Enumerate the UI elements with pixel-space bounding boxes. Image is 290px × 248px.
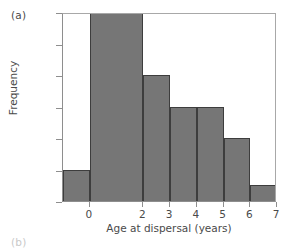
histogram-bar [90, 14, 144, 201]
x-axis-tick-mark [276, 202, 277, 207]
x-axis-tick-label: 7 [266, 208, 286, 220]
histogram-bar [63, 170, 90, 202]
x-axis-tick-label: 4 [186, 208, 206, 220]
histogram-bar [143, 75, 170, 201]
histogram-bar [224, 138, 251, 201]
x-axis-tick-mark [249, 202, 250, 207]
x-axis-tick-label: 2 [132, 208, 152, 220]
x-axis-tick-mark [223, 202, 224, 207]
x-axis-tick-label: 5 [213, 208, 233, 220]
y-axis: 024681012 [0, 0, 62, 246]
x-axis-tick-mark [169, 202, 170, 207]
histogram-bar [170, 107, 197, 202]
bars-container [63, 14, 275, 201]
x-axis-tick-mark [142, 202, 143, 207]
x-axis-tick-label: 6 [239, 208, 259, 220]
histogram-bar [250, 185, 275, 201]
y-axis-tick-mark [56, 202, 62, 203]
x-axis-tick-label: 3 [159, 208, 179, 220]
x-axis-tick-label: 0 [79, 208, 99, 220]
histogram-bar [197, 107, 224, 202]
plot-area [62, 13, 276, 202]
x-axis-title: Age at dispersal (years) [62, 222, 276, 234]
x-axis-tick-mark [196, 202, 197, 207]
x-axis-tick-mark [89, 202, 90, 207]
